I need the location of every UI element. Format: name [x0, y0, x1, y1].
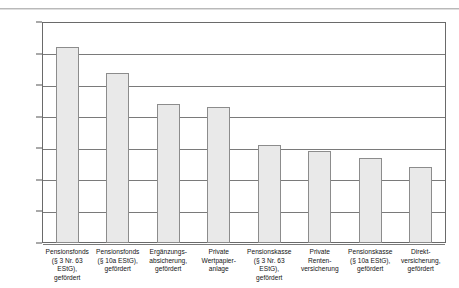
- bar-series: [42, 22, 446, 243]
- y-axis: 32,92,82,72,62,52,42,3: [0, 0, 42, 288]
- bar-chart-figure: 32,92,82,72,62,52,42,3 Pensionsfonds (§ …: [0, 0, 459, 288]
- x-axis-category-labels: Pensionsfonds (§ 3 Nr. 63 EStG), geförde…: [42, 248, 446, 288]
- x-axis-category-label: Ergänzungs- absicherung, gefördert: [143, 248, 194, 274]
- bar: [106, 73, 129, 243]
- x-axis-category-label: Pensionsfonds (§ 3 Nr. 63 EStG), geförde…: [42, 248, 93, 282]
- bar: [409, 167, 432, 243]
- gridline: [43, 244, 445, 245]
- x-axis-category-label: Private Renten- versicherung: [295, 248, 346, 274]
- bar: [56, 47, 79, 243]
- x-axis-category-label: Private Wertpapier- anlage: [194, 248, 245, 274]
- x-axis-category-label: Pensionskasse (§ 10a EStG), gefördert: [345, 248, 396, 274]
- bar: [308, 151, 331, 243]
- top-divider-rule-shadow: [0, 9, 459, 10]
- bar: [359, 158, 382, 243]
- x-axis-category-label: Pensionskasse (§ 3 Nr. 63 EStG), geförde…: [244, 248, 295, 282]
- bar: [157, 104, 180, 243]
- bar: [258, 145, 281, 243]
- x-axis-category-label: Direkt- versicherung, gefördert: [396, 248, 447, 274]
- bar: [207, 107, 230, 243]
- x-axis-category-label: Pensionsfonds (§ 10a EStG), gefördert: [93, 248, 144, 274]
